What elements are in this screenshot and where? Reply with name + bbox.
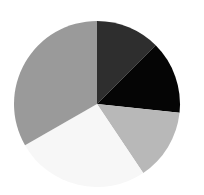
pie-slices	[14, 21, 180, 187]
pie-chart	[0, 0, 204, 195]
